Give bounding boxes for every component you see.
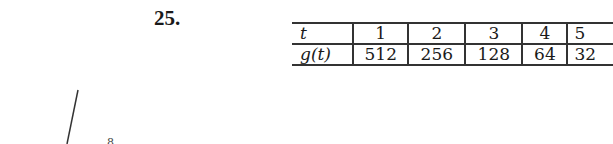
axis-tick-label: 8 [107,136,114,144]
axis-line [67,90,78,144]
graph-sketch [0,0,613,144]
